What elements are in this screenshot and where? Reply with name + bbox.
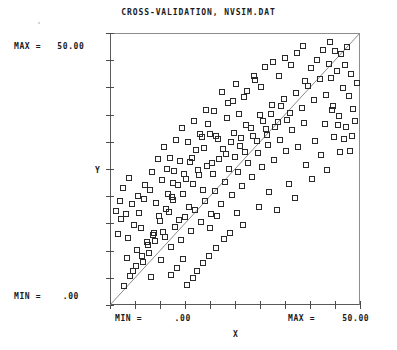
- plot-frame: [110, 33, 360, 305]
- y-axis-tick: [106, 223, 114, 224]
- x-axis-title: X: [233, 330, 238, 340]
- y-axis-title: Y: [95, 166, 100, 176]
- y-axis-tick: [106, 251, 114, 252]
- y-axis-tick: [106, 142, 114, 143]
- image-artifact-speck: [38, 22, 40, 24]
- x-axis-tick: [260, 301, 261, 309]
- x-axis-min-label: MIN = .00: [115, 314, 191, 324]
- y-axis-min-label: MIN = .00: [14, 292, 79, 302]
- x-axis-tick: [185, 301, 186, 309]
- x-axis-tick: [335, 301, 336, 309]
- y-axis-tick: [106, 196, 114, 197]
- y-axis-tick: [106, 115, 114, 116]
- x-axis-tick: [135, 301, 136, 309]
- x-axis-max-label: MAX = 50.00: [288, 314, 369, 324]
- x-axis-tick: [160, 301, 161, 309]
- x-axis-tick: [235, 301, 236, 309]
- plot-area: [110, 33, 360, 305]
- x-axis-tick: [285, 301, 286, 309]
- y-axis-tick: [106, 33, 114, 34]
- x-axis-tick: [210, 301, 211, 309]
- y-axis-tick: [106, 278, 114, 279]
- x-axis-tick: [310, 301, 311, 309]
- chart-screenshot: CROSS-VALIDATION, NVSIM.DAT MAX = 50.00 …: [0, 0, 397, 350]
- x-axis-tick: [110, 301, 111, 309]
- x-axis-tick: [360, 301, 361, 309]
- chart-title: CROSS-VALIDATION, NVSIM.DAT: [0, 8, 397, 18]
- y-axis-tick: [106, 87, 114, 88]
- y-axis-max-label: MAX = 50.00: [14, 42, 84, 52]
- y-axis-tick: [106, 60, 114, 61]
- y-axis-tick: [106, 169, 114, 170]
